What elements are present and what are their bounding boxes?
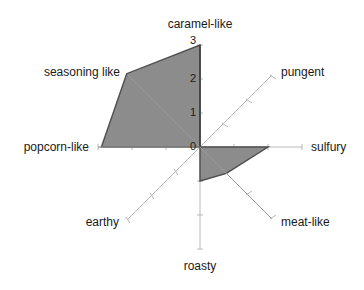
tick-mark [270,75,276,79]
axis-line-earthy [128,147,200,219]
radial-tick-0: 0 [190,140,196,152]
radar-data-polygon [101,45,268,181]
radial-tick-1: 1 [190,106,196,118]
axis-label-caramel-like: caramel-like [168,17,233,31]
radar-chart: 3 2 1 0 caramel-like pungent sulfury mea… [0,0,364,290]
radar-chart-svg: 3 2 1 0 caramel-like pungent sulfury mea… [0,0,364,290]
axis-label-seasoning-like: seasoning like [44,65,120,79]
tick-mark [222,123,228,127]
axis-label-pungent: pungent [281,65,325,79]
tick-mark [246,99,252,103]
axis-label-earthy: earthy [86,215,119,229]
axis-label-popcorn-like: popcorn-like [24,140,90,154]
axis-label-meat-like: meat-like [281,215,330,229]
axis-label-sulfury: sulfury [311,140,346,154]
radial-tick-2: 2 [190,72,196,84]
axis-line-pungent [200,75,272,147]
radial-tick-3: 3 [190,34,196,46]
axis-label-roasty: roasty [184,259,217,273]
